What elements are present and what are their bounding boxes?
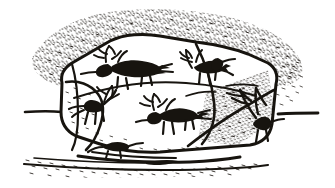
- engraved-boulder: [61, 34, 277, 152]
- petroglyph-boulder-illustration: Petroglyph boulder with engraved antlere…: [0, 0, 335, 188]
- illustration-canvas: Petroglyph boulder with engraved antlere…: [0, 0, 335, 188]
